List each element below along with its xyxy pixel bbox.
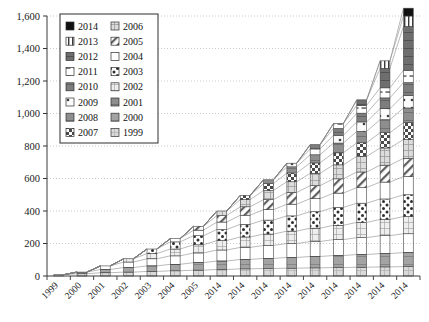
- bar-segment: [403, 123, 413, 140]
- bar-segment: [403, 253, 413, 267]
- legend-item-label[interactable]: 2008: [78, 112, 98, 123]
- bar-segment: [264, 184, 274, 191]
- bar-segment: [264, 180, 274, 184]
- bar-segment: [287, 204, 297, 216]
- legend-item-label[interactable]: 2000: [123, 112, 143, 123]
- legend-item-label[interactable]: 2004: [123, 51, 143, 62]
- bar-segment: [334, 135, 344, 143]
- bar-segment: [334, 128, 344, 135]
- bar-segment: [124, 259, 134, 262]
- bar-segment: [403, 195, 413, 217]
- legend-swatch[interactable]: [66, 68, 74, 76]
- bar-segment: [287, 167, 297, 173]
- legend-item-label[interactable]: 2014: [78, 21, 98, 32]
- legend-item-label[interactable]: 2005: [123, 36, 143, 47]
- bar-segment: [380, 61, 390, 68]
- bar-segment: [217, 230, 227, 241]
- bar-segment: [147, 254, 157, 259]
- legend-item-label[interactable]: 2010: [78, 81, 98, 92]
- bar-segment: [403, 177, 413, 195]
- bar-segment: [100, 270, 110, 273]
- bar-segment: [380, 98, 390, 109]
- bar-segment: [357, 143, 367, 157]
- bar-segment: [310, 173, 320, 185]
- bar-segment: [403, 95, 413, 108]
- y-tick-label: 1,400: [16, 43, 40, 54]
- bar-segment: [147, 271, 157, 276]
- table-row: [310, 145, 320, 276]
- bar-segment: [380, 182, 390, 199]
- legend-item-label[interactable]: 2001: [123, 97, 143, 108]
- legend-swatch[interactable]: [111, 37, 119, 45]
- bar-segment: [287, 192, 297, 204]
- legend-swatch[interactable]: [66, 22, 74, 30]
- bar-segment: [170, 271, 180, 276]
- table-row: [194, 226, 204, 276]
- legend-item-label[interactable]: 2012: [78, 51, 98, 62]
- bar-segment: [147, 266, 157, 272]
- bar-segment: [77, 272, 87, 274]
- legend-swatch[interactable]: [111, 113, 119, 121]
- bar-segment: [240, 215, 250, 224]
- bar-segment: [264, 220, 274, 234]
- bar-segment: [264, 269, 274, 276]
- legend-item-label[interactable]: 2007: [78, 127, 98, 138]
- legend-swatch[interactable]: [66, 83, 74, 91]
- bar-segment: [170, 242, 180, 249]
- bar-segment: [357, 131, 367, 142]
- legend-swatch[interactable]: [66, 128, 74, 136]
- table-row: [240, 195, 250, 276]
- legend-item-label[interactable]: 1999: [123, 127, 143, 138]
- bar-segment: [240, 269, 250, 276]
- bar-segment: [310, 155, 320, 163]
- legend-swatch[interactable]: [66, 113, 74, 121]
- bar-segment: [357, 122, 367, 131]
- legend-item-label[interactable]: 2003: [123, 66, 143, 77]
- bar-segment: [194, 270, 204, 276]
- y-tick-label: 1,600: [16, 11, 40, 22]
- legend-swatch[interactable]: [66, 37, 74, 45]
- bar-segment: [240, 207, 250, 215]
- bar-segment: [264, 234, 274, 245]
- legend-swatch[interactable]: [111, 83, 119, 91]
- bar-segment: [334, 165, 344, 179]
- bar-segment: [217, 241, 227, 250]
- legend-swatch[interactable]: [111, 52, 119, 60]
- bar-segment: [334, 225, 344, 239]
- bar-segment: [240, 259, 250, 268]
- legend-item-label[interactable]: 2011: [78, 66, 98, 77]
- legend-item-label[interactable]: 2009: [78, 97, 98, 108]
- bar-segment: [334, 193, 344, 207]
- legend-item-label[interactable]: 2013: [78, 36, 98, 47]
- table-row: [124, 259, 134, 276]
- y-tick-label: 1,000: [16, 108, 40, 119]
- legend-swatch[interactable]: [111, 98, 119, 106]
- legend-item-label[interactable]: 2002: [123, 81, 143, 92]
- bar-segment: [357, 267, 367, 276]
- bar-segment: [380, 165, 390, 182]
- bar-segment: [194, 226, 204, 230]
- bar-segment: [310, 186, 320, 199]
- legend-item-label[interactable]: 2006: [123, 21, 143, 32]
- legend-swatch[interactable]: [111, 22, 119, 30]
- bar-segment: [240, 224, 250, 237]
- bar-segment: [240, 237, 250, 247]
- bar-segment: [194, 263, 204, 270]
- bar-segment: [147, 249, 157, 254]
- bar-segment: [217, 270, 227, 277]
- bar-segment: [403, 267, 413, 276]
- legend-swatch[interactable]: [111, 128, 119, 136]
- legend-swatch[interactable]: [111, 68, 119, 76]
- legend-swatch[interactable]: [66, 52, 74, 60]
- bar-segment: [310, 257, 320, 268]
- bar-segment: [334, 143, 344, 153]
- bar-segment: [357, 113, 367, 122]
- bar-segment: [310, 228, 320, 241]
- bar-segment: [380, 68, 390, 88]
- table-row: [217, 211, 227, 276]
- legend-swatch[interactable]: [66, 98, 74, 106]
- bar-segment: [217, 211, 227, 216]
- chart-canvas: 02004006008001,0001,2001,4001,600 199920…: [0, 0, 429, 322]
- bar-segment: [403, 16, 413, 26]
- bar-segment: [403, 217, 413, 234]
